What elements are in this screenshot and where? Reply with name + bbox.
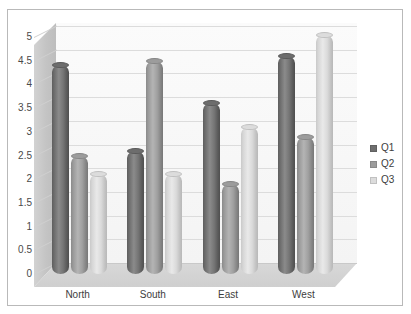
bar-top-cap (71, 153, 88, 159)
bars-layer (8, 10, 404, 307)
legend-swatch-icon (370, 145, 377, 152)
bar-north-q3[interactable] (90, 174, 107, 274)
bar-east-q1[interactable] (203, 103, 220, 274)
y-axis-tick-label: 2 (8, 174, 32, 184)
bar-top-cap (90, 171, 107, 177)
legend-swatch-icon (370, 177, 377, 184)
bar-east-q3[interactable] (241, 127, 258, 274)
x-axis-tick-label: South (116, 289, 190, 301)
bar-top-cap (278, 53, 295, 59)
bar-top-cap (297, 134, 314, 140)
bar-top-cap (52, 62, 69, 68)
bar-top-cap (127, 148, 144, 154)
bar-south-q3[interactable] (165, 174, 182, 274)
y-axis: 00.511.522.533.544.55 (8, 10, 32, 307)
legend-label: Q3 (381, 175, 394, 185)
y-axis-tick-label: 4 (8, 79, 32, 89)
plot-area (8, 10, 404, 307)
bar-south-q2[interactable] (146, 61, 163, 274)
bar-south-q1[interactable] (127, 151, 144, 274)
legend-item-q2[interactable]: Q2 (370, 156, 404, 172)
bar-top-cap (316, 32, 333, 38)
bar-top-cap (165, 171, 182, 177)
y-axis-tick-label: 3.5 (8, 103, 32, 113)
bar-north-q2[interactable] (71, 156, 88, 275)
y-axis-tick-label: 5 (8, 32, 32, 42)
bar-top-cap (222, 181, 239, 187)
legend-item-q1[interactable]: Q1 (370, 140, 404, 156)
chart-legend: Q1Q2Q3 (370, 140, 404, 188)
y-axis-tick-label: 4.5 (8, 56, 32, 66)
bar-east-q2[interactable] (222, 184, 239, 274)
chart-frame: 00.511.522.533.544.55 NorthSouthEastWest… (7, 9, 403, 306)
legend-item-q3[interactable]: Q3 (370, 172, 404, 188)
bar-west-q1[interactable] (278, 56, 295, 274)
legend-label: Q2 (381, 159, 394, 169)
x-axis-tick-label: North (41, 289, 115, 301)
bar-west-q2[interactable] (297, 137, 314, 274)
y-axis-tick-label: 0.5 (8, 245, 32, 255)
y-axis-tick-label: 1.5 (8, 198, 32, 208)
y-axis-tick-label: 0 (8, 269, 32, 279)
bar-top-cap (203, 100, 220, 106)
y-axis-tick-label: 2.5 (8, 151, 32, 161)
x-axis: NorthSouthEastWest (8, 289, 404, 307)
legend-label: Q1 (381, 143, 394, 153)
y-axis-tick-label: 1 (8, 222, 32, 232)
bar-top-cap (146, 58, 163, 64)
x-axis-tick-label: East (191, 289, 265, 301)
bar-top-cap (241, 124, 258, 130)
bar-west-q3[interactable] (316, 35, 333, 274)
legend-swatch-icon (370, 161, 377, 168)
bar-north-q1[interactable] (52, 65, 69, 274)
x-axis-tick-label: West (266, 289, 340, 301)
y-axis-tick-label: 3 (8, 127, 32, 137)
